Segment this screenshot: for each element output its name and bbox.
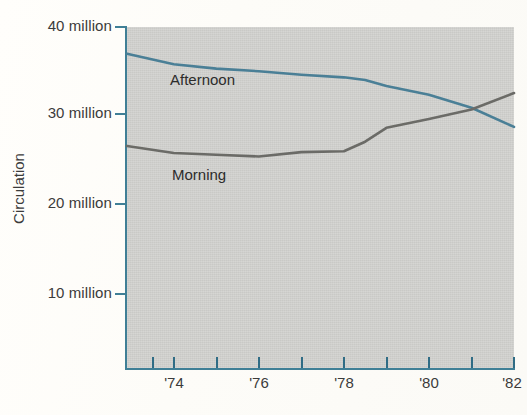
y-axis-title: Circulation <box>10 124 27 254</box>
x-tick-1977 <box>301 357 303 368</box>
y-tick-label-40: 40 million <box>48 17 112 34</box>
x-tick-1978 <box>343 357 345 368</box>
x-tick-1975 <box>216 357 218 368</box>
series-label-afternoon: Afternoon <box>170 71 235 88</box>
chart-figure: 40 million 30 million 20 million 10 mill… <box>0 0 527 415</box>
x-tick-1982 <box>513 357 515 368</box>
y-tick-label-10: 10 million <box>48 284 112 301</box>
x-tick-1981 <box>471 357 473 368</box>
x-axis-line <box>125 368 515 370</box>
x-tick-label-78: '78 <box>334 374 354 391</box>
series-label-morning: Morning <box>172 166 226 183</box>
y-tick-10 <box>115 293 126 295</box>
y-axis-line <box>125 26 127 370</box>
y-tick-20 <box>115 203 126 205</box>
y-tick-40 <box>115 26 126 28</box>
x-tick-1974 <box>173 357 175 368</box>
x-tick-label-74: '74 <box>164 374 184 391</box>
y-tick-30 <box>115 113 126 115</box>
x-tick-1979 <box>386 357 388 368</box>
x-tick-1980 <box>428 357 430 368</box>
x-tick-label-82: '82 <box>502 374 522 391</box>
x-tick-label-80: '80 <box>419 374 439 391</box>
y-tick-label-30: 30 million <box>48 104 112 121</box>
x-tick-1976 <box>258 357 260 368</box>
x-tick-0 <box>152 357 154 368</box>
y-tick-label-20: 20 million <box>48 194 112 211</box>
x-tick-label-76: '76 <box>249 374 269 391</box>
